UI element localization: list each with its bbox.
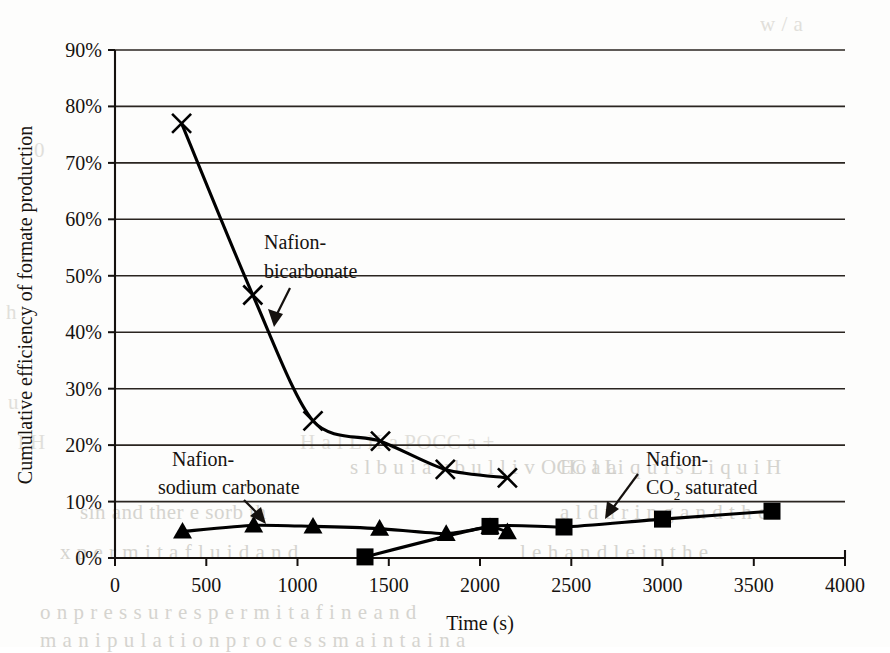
y-axis-title: Cumulative efficiency of formate product…: [14, 126, 37, 484]
x-tick-label: 3000: [643, 574, 683, 596]
anno-bicarbonate-arrow-head: [268, 309, 283, 327]
y-tick-label: 30%: [65, 378, 102, 400]
anno-bicarbonate-line1: Nafion-: [264, 231, 326, 253]
y-tick-label: 40%: [65, 321, 102, 343]
marker-square: [357, 548, 374, 565]
anno-co2-line2: CO2 saturated: [646, 476, 757, 503]
y-tick-label: 20%: [65, 434, 102, 456]
x-tick-label: 1500: [369, 574, 409, 596]
marker-x: [371, 432, 390, 451]
anno-sodium-line1: Nafion-: [172, 448, 234, 470]
x-tick-label: 4000: [825, 574, 865, 596]
series-nafion-sodium-carbonate: [173, 516, 517, 541]
y-tick-label: 60%: [65, 208, 102, 230]
annotation-layer: Nafion- bicarbonate Nafion- sodium carbo…: [158, 231, 757, 524]
x-tick-label: 0: [110, 574, 120, 596]
y-tick-label: 10%: [65, 491, 102, 513]
anno-co2-line1: Nafion-: [646, 448, 708, 470]
marker-x: [436, 460, 455, 479]
marker-x: [243, 286, 262, 305]
anno-co2-suffix: saturated: [680, 476, 757, 498]
x-tick-label: 2000: [460, 574, 500, 596]
marker-square: [654, 511, 671, 528]
x-tick-label: 1000: [278, 574, 318, 596]
anno-co2-prefix: CO: [646, 476, 674, 498]
x-axis-ticks: 05001000150020002500300035004000: [110, 558, 865, 596]
marker-x: [304, 411, 323, 430]
x-tick-label: 2500: [551, 574, 591, 596]
anno-sodium-line2: sodium carbonate: [158, 476, 300, 498]
series-line: [182, 123, 508, 477]
x-tick-label: 500: [191, 574, 221, 596]
anno-bicarbonate-line2: bicarbonate: [264, 260, 357, 282]
x-axis-title: Time (s): [446, 612, 514, 635]
y-tick-label: 70%: [65, 152, 102, 174]
marker-square: [482, 518, 499, 535]
marker-square: [556, 519, 573, 536]
y-tick-label: 90%: [65, 39, 102, 61]
y-tick-label: 80%: [65, 95, 102, 117]
series-nafion-co2-saturated: [357, 503, 781, 566]
y-tick-label: 50%: [65, 265, 102, 287]
annotation-nafion-co2-saturated: Nafion- CO2 saturated: [605, 448, 757, 519]
annotation-nafion-bicarbonate: Nafion- bicarbonate: [264, 231, 357, 327]
gridlines: [115, 50, 845, 502]
annotation-nafion-sodium-carbonate: Nafion- sodium carbonate: [158, 448, 300, 524]
series-nafion-bicarbonate: [172, 114, 517, 487]
marker-x: [172, 114, 191, 133]
y-tick-label: 0%: [75, 547, 102, 569]
x-tick-label: 3500: [734, 574, 774, 596]
marker-square: [764, 503, 781, 520]
y-axis-ticks: 0%10%20%30%40%50%60%70%80%90%: [65, 39, 115, 569]
